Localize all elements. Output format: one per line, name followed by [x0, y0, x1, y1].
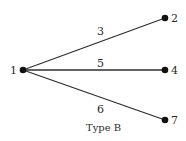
node-label-7: 7 [171, 114, 178, 127]
edge-1-7 [23, 70, 165, 120]
node-7 [162, 117, 169, 124]
node-label-1: 1 [10, 64, 17, 77]
edge-1-2 [23, 18, 165, 70]
edge-label-1-4: 5 [97, 57, 104, 70]
edge-label-1-2: 3 [97, 25, 104, 38]
star-graph-diagram: 1 2 4 7 3 5 6 Type B [0, 0, 186, 141]
diagram-caption: Type B [86, 122, 121, 133]
node-label-4: 4 [171, 64, 178, 77]
node-4 [162, 67, 169, 74]
edge-label-1-7: 6 [97, 103, 104, 116]
node-1 [20, 67, 27, 74]
node-2 [162, 15, 169, 22]
node-label-2: 2 [171, 12, 178, 25]
